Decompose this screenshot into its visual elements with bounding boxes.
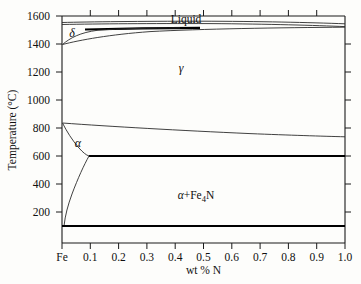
y-tick-label: 1400 [27, 38, 50, 50]
alpha-solvus-curve [64, 156, 89, 226]
y-axis-title: Temperature (°C) [6, 89, 19, 170]
y-tick-labels: 1600 1400 1200 1000 800 600 400 200 [27, 10, 50, 218]
x-tick-label: 0.3 [140, 251, 155, 263]
phase-label-liquid: Liquid [171, 13, 202, 26]
y-tick-label: 1200 [27, 66, 50, 78]
gamma-lower-boundary [63, 123, 346, 137]
x-tick-label: 0.8 [281, 251, 296, 263]
y-tick-label: 800 [33, 122, 51, 134]
y-tick-label: 1000 [27, 94, 50, 106]
y-tick-label: 600 [33, 150, 51, 162]
plot-frame [62, 16, 345, 243]
phase-label-delta: δ [69, 26, 75, 40]
x-tick-label: 0.1 [83, 251, 98, 263]
x-tick-label: 0.6 [225, 251, 240, 263]
phase-label-alpha: α [75, 136, 82, 150]
y-axis-ticks-right [345, 44, 351, 212]
x-tick-label: 0.4 [168, 251, 183, 263]
x-tick-label: 0.9 [310, 251, 325, 263]
y-tick-label: 200 [33, 206, 51, 218]
delta-upper-limb [63, 28, 181, 45]
solidus-curve [62, 24, 345, 27]
phase-label-alpha-fe4n: α+Fe4N [178, 189, 215, 204]
y-tick-label: 400 [33, 178, 51, 190]
x-axis-title: wt % N [186, 264, 222, 276]
x-tick-label: 1.0 [338, 251, 353, 263]
fe-n-phase-diagram-svg: 1600 1400 1200 1000 800 600 400 200 Fe 0… [0, 0, 361, 284]
x-tick-label: 0.5 [196, 251, 211, 263]
phase-diagram-figure: 1600 1400 1200 1000 800 600 400 200 Fe 0… [0, 0, 361, 284]
x-axis-ticks-top [90, 10, 316, 16]
x-axis-ticks-bottom [62, 243, 345, 249]
y-tick-label: 1600 [27, 10, 50, 22]
x-tick-label: 0.7 [253, 251, 268, 263]
phase-label-gamma: γ [179, 61, 184, 75]
x-tick-labels: Fe 0.1 0.2 0.3 0.4 0.5 0.6 0.7 0.8 0.9 1… [56, 251, 352, 263]
x-tick-label: Fe [56, 251, 68, 263]
y-axis-ticks [56, 16, 62, 212]
x-tick-label: 0.2 [111, 251, 126, 263]
